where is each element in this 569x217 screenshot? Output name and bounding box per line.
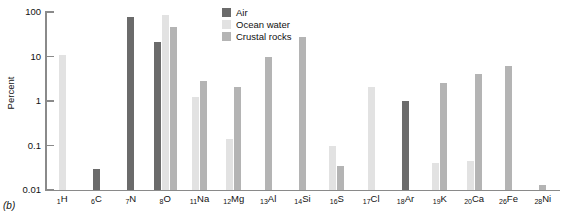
bar-group: [388, 12, 422, 190]
bar: [299, 37, 306, 190]
legend-item-air: Air: [222, 7, 291, 18]
legend-swatch-ocean: [222, 20, 231, 29]
y-axis-tick-label: 100: [25, 7, 41, 17]
legend-label: Crustal rocks: [236, 32, 291, 42]
bar-group: [114, 12, 148, 190]
x-axis-label-h: 1H: [45, 193, 79, 205]
x-axis-label-n: 7N: [114, 193, 148, 205]
x-axis-label-ca: 20Ca: [457, 193, 491, 205]
y-axis-tick-label: 10: [30, 52, 41, 62]
x-axis-label-k: 19K: [423, 193, 457, 205]
bar: [265, 57, 272, 191]
y-axis-tick-label-wrap: 0.01: [0, 185, 41, 195]
x-axis-label-si: 14Si: [285, 193, 319, 205]
bar: [93, 169, 100, 190]
bar: [475, 74, 482, 190]
y-axis-tick-label-wrap: 0.1: [0, 141, 41, 151]
bar: [337, 166, 344, 190]
bar: [539, 185, 546, 190]
legend-item-crustal: Crustal rocks: [222, 31, 291, 42]
legend-item-ocean: Ocean water: [222, 19, 291, 30]
x-axis-label-na: 11Na: [182, 193, 216, 205]
x-axis-label-ar: 18Ar: [388, 193, 422, 205]
element-abundance-bar-chart: Percent 1001010.10.01 1H6C7N8O11Na12Mg13…: [0, 0, 569, 217]
bar-group: [354, 12, 388, 190]
y-axis-tick-label: 1: [36, 96, 41, 106]
figure-label: (b): [3, 200, 15, 211]
bar-group: [320, 12, 354, 190]
y-axis-tick-label: 0.1: [28, 141, 41, 151]
bar-group: [457, 12, 491, 190]
bar-group: [526, 12, 560, 190]
y-axis-tick-label-wrap: 10: [0, 52, 41, 62]
bar: [170, 27, 177, 190]
x-axis-label-mg: 12Mg: [217, 193, 251, 205]
y-axis-title: Percent: [6, 63, 16, 123]
bar: [200, 81, 207, 190]
legend-swatch-air: [222, 8, 231, 17]
bar: [505, 66, 512, 190]
bar: [154, 42, 161, 190]
bar-group: [182, 12, 216, 190]
bar: [368, 87, 375, 190]
x-axis-label-s: 16S: [320, 193, 354, 205]
x-axis-label-fe: 26Fe: [491, 193, 525, 205]
x-axis-label-cl: 17Cl: [354, 193, 388, 205]
bar: [127, 17, 134, 190]
bar-group: [491, 12, 525, 190]
bar: [234, 87, 241, 190]
x-axis-label-o: 8O: [148, 193, 182, 205]
bar: [329, 146, 336, 191]
y-axis-tick-label-wrap: 1: [0, 96, 41, 106]
bar: [226, 139, 233, 190]
bar: [432, 163, 439, 190]
legend-label: Ocean water: [236, 20, 290, 30]
bar-group: [79, 12, 113, 190]
bar-group: [148, 12, 182, 190]
bar: [162, 15, 169, 190]
legend-label: Air: [236, 8, 248, 18]
bar: [59, 55, 66, 190]
plot-area: [45, 12, 560, 190]
bar-group: [45, 12, 79, 190]
legend-swatch-crustal: [222, 32, 231, 41]
y-axis-tick-label-wrap: 100: [0, 7, 41, 17]
x-axis-label-ni: 28Ni: [526, 193, 560, 205]
x-axis-label-al: 13Al: [251, 193, 285, 205]
bar: [440, 83, 447, 190]
bar: [402, 101, 409, 190]
x-axis-label-c: 6C: [79, 193, 113, 205]
legend: AirOcean waterCrustal rocks: [222, 7, 291, 43]
bar: [467, 161, 474, 190]
bar-group: [423, 12, 457, 190]
y-axis-tick-label: 0.01: [23, 185, 42, 195]
bar: [192, 97, 199, 190]
